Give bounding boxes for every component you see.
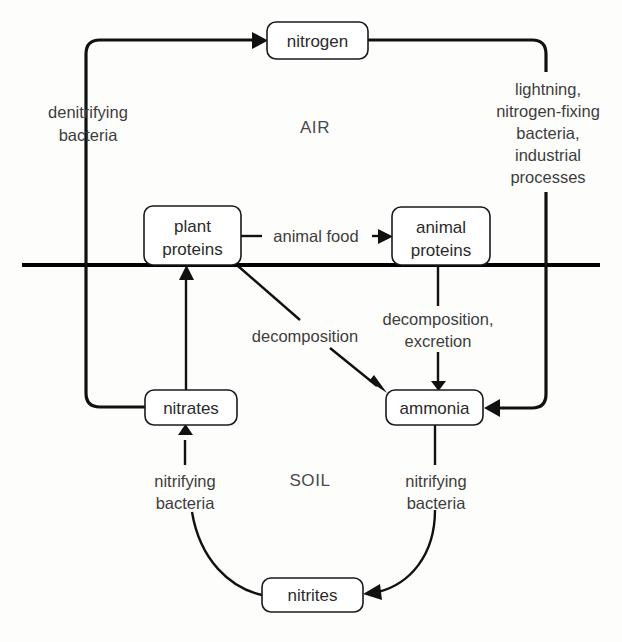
node-plant-proteins-label-line1: plant (174, 217, 211, 236)
nitrogen-fixation-line1: lightning, (515, 80, 581, 98)
node-nitrogen-label: nitrogen (287, 32, 348, 51)
edge-label-decomposition-excretion: decomposition, excretion (383, 310, 494, 350)
flow-animal-proteins-to-ammonia (431, 266, 446, 391)
node-nitrates[interactable]: nitrates (145, 390, 237, 425)
decomposition-excretion-line1: decomposition, (383, 310, 494, 328)
node-ammonia[interactable]: ammonia (386, 390, 483, 425)
nitrogen-fixation-line5: processes (510, 168, 585, 186)
nitrogen-cycle-diagram: nitrogen plant proteins animal proteins … (0, 0, 622, 642)
nitrifying-bacteria-left-line1: nitrifying (154, 472, 215, 490)
decomposition-path-upper (238, 266, 300, 320)
edge-label-nitrifying-bacteria-right: nitrifying bacteria (405, 472, 466, 512)
nitrifying-bacteria-left-line2: bacteria (156, 494, 216, 512)
arrowhead-into-ammonia-diagonal (369, 375, 387, 393)
nitrogen-fixation-line4: industrial (515, 146, 581, 164)
region-label-soil: SOIL (289, 471, 330, 490)
edge-label-decomposition: decomposition (252, 327, 358, 345)
arrowhead-into-animal-proteins (378, 229, 393, 244)
arrowhead-into-nitrites (363, 584, 382, 600)
nitrogen-fixation-line2: nitrogen-fixing (496, 102, 600, 120)
arrowhead-into-ammonia-right (484, 399, 500, 417)
nitrifying-bacteria-right-line2: bacteria (407, 494, 467, 512)
arrowhead-into-nitrogen (252, 32, 268, 49)
node-nitrites-label: nitrites (287, 586, 337, 605)
edge-label-nitrogen-fixation: lightning, nitrogen-fixing bacteria, ind… (496, 80, 600, 186)
nitrifying-right-path-lower (378, 510, 435, 592)
arrowhead-into-plant-proteins (179, 265, 194, 280)
node-nitrogen[interactable]: nitrogen (267, 22, 368, 59)
nitrogen-fixing-path-lower (500, 192, 546, 408)
node-nitrites[interactable]: nitrites (262, 578, 363, 612)
flow-ammonia-to-nitrites (363, 425, 435, 600)
denitrifying-bacteria-line1: denitrifying (48, 103, 128, 121)
flow-nitrates-to-plant-proteins (179, 265, 194, 390)
nitrifying-left-path-lower (192, 512, 262, 595)
nitrogen-fixing-path-upper (368, 40, 546, 72)
node-plant-proteins-label-line2: proteins (162, 240, 222, 259)
edge-label-nitrifying-bacteria-left: nitrifying bacteria (154, 472, 215, 512)
diagram-canvas: nitrogen plant proteins animal proteins … (0, 0, 622, 642)
nitrifying-bacteria-right-line1: nitrifying (405, 472, 466, 490)
denitrifying-bacteria-line2: bacteria (59, 126, 119, 144)
node-animal-proteins-label-line2: proteins (411, 241, 471, 260)
node-animal-proteins-label-line1: animal (416, 218, 466, 237)
edge-label-animal-food: animal food (273, 227, 358, 245)
node-nitrates-label: nitrates (163, 399, 219, 418)
node-ammonia-label: ammonia (400, 399, 470, 418)
node-animal-proteins[interactable]: animal proteins (392, 207, 490, 265)
nitrogen-fixation-line3: bacteria, (516, 124, 579, 142)
edge-label-denitrifying-bacteria: denitrifying bacteria (48, 103, 128, 144)
decomposition-excretion-line2: excretion (405, 332, 472, 350)
node-plant-proteins[interactable]: plant proteins (144, 206, 241, 265)
region-label-air: AIR (300, 118, 330, 137)
